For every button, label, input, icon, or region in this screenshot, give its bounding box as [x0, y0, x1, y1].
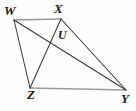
vertex-label-y: Y: [121, 92, 129, 105]
geometry-canvas: [0, 0, 136, 111]
segment-wz: [14, 20, 30, 88]
vertex-label-w: W: [4, 4, 16, 17]
vertex-label-x: X: [54, 2, 63, 15]
segment-zy: [30, 88, 126, 90]
segment-xy: [61, 19, 126, 90]
segment-wy-diagonal: [14, 20, 126, 90]
vertex-label-u: U: [58, 29, 67, 42]
segment-wx: [14, 19, 61, 20]
vertex-label-z: Z: [27, 88, 35, 101]
geometry-figure: W X U Z Y: [0, 0, 136, 111]
segment-xz-diagonal: [30, 19, 61, 88]
